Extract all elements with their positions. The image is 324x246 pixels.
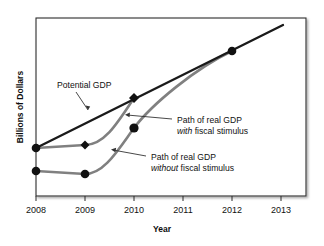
- x-axis-ticks: [36, 196, 281, 201]
- marker-potential-2008: [32, 144, 41, 153]
- annotation-with-stimulus-line2: with fiscal stimulus: [177, 126, 248, 136]
- annotation-without-stimulus-emphasis: without: [151, 163, 179, 173]
- x-axis-title: Year: [153, 224, 172, 234]
- chart-figure: 2008 2009 2010 2011 2012 2013 Year Billi…: [0, 0, 324, 246]
- annotation-potential-gdp-text: Potential GDP: [57, 80, 112, 90]
- x-axis-tick-labels: 2008 2009 2010 2011 2012 2013: [26, 205, 291, 215]
- gdp-line-chart: 2008 2009 2010 2011 2012 2013 Year Billi…: [0, 0, 324, 246]
- x-tick-label-2010: 2010: [124, 205, 144, 215]
- marker-without-stimulus-2010: [129, 123, 138, 132]
- annotation-with-stimulus-line1: Path of real GDP: [177, 115, 242, 125]
- annotation-without-stimulus-line2: without fiscal stimulus: [151, 163, 234, 173]
- x-tick-label-2013: 2013: [271, 205, 291, 215]
- x-tick-label-2011: 2011: [173, 205, 192, 215]
- x-tick-label-2009: 2009: [75, 205, 95, 215]
- annotation-without-stimulus-rest: fiscal stimulus: [178, 163, 234, 173]
- annotation-with-stimulus-rest: fiscal stimulus: [192, 126, 248, 136]
- marker-without-stimulus-2009: [81, 170, 90, 179]
- marker-without-stimulus-2008: [32, 167, 41, 176]
- y-axis-title: Billions of Dollars: [15, 71, 25, 144]
- x-tick-label-2012: 2012: [222, 205, 242, 215]
- annotation-without-stimulus-line1: Path of real GDP: [151, 152, 216, 162]
- marker-potential-2012: [228, 47, 237, 56]
- x-tick-label-2008: 2008: [26, 205, 46, 215]
- annotation-with-stimulus-emphasis: with: [177, 126, 193, 136]
